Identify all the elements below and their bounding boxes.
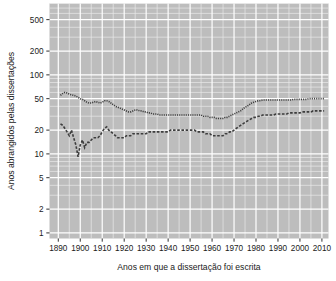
x-axis-title: Anos em que a dissertação foi escrita [117,262,261,272]
x-tick-label: 1930 [137,244,156,253]
x-tick-label: 1920 [115,244,134,253]
y-tick-label: 200 [30,47,44,56]
y-tick-label: 100 [30,71,44,80]
x-tick-label: 1890 [49,244,68,253]
y-tick-label: 10 [34,150,44,159]
log-line-chart: 1890190019101920193019401950196019701980… [0,0,336,281]
chart-figure: 1890190019101920193019401950196019701980… [0,0,336,281]
x-tick-label: 1980 [247,244,266,253]
x-tick-label: 1970 [225,244,244,253]
x-tick-label: 1940 [159,244,178,253]
x-tick-label: 1960 [203,244,222,253]
x-tick-label: 1900 [71,244,90,253]
y-tick-label: 5 [39,174,44,183]
y-tick-label: 2 [39,205,44,214]
y-tick-label: 500 [30,16,44,25]
y-tick-label: 20 [34,126,44,135]
y-tick-label: 1 [39,229,44,238]
x-tick-label: 2000 [291,244,310,253]
y-tick-label: 50 [34,95,44,104]
x-tick-label: 1950 [181,244,200,253]
x-tick-label: 2010 [313,244,332,253]
x-tick-label: 1910 [93,244,112,253]
y-axis-title: Anos abrangidos pelas dissertações [6,52,16,190]
x-tick-label: 1990 [269,244,288,253]
